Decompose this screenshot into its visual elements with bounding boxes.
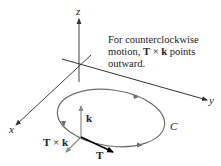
caption-T: T <box>143 46 150 57</box>
z-axis-label: z <box>76 6 80 17</box>
diagram-canvas <box>0 0 221 166</box>
t-vector-label: T <box>96 150 103 161</box>
txk-k: k <box>62 136 68 148</box>
k-vector-label: k <box>86 113 92 124</box>
x-axis-label: x <box>9 124 14 135</box>
caption-line-1: For counterclockwise <box>108 34 218 46</box>
caption-points: points <box>167 46 195 57</box>
caption-times: × <box>150 46 161 57</box>
txk-times: × <box>50 136 62 148</box>
caption-motion: motion, <box>108 46 143 57</box>
curve-c-label: C <box>170 121 177 132</box>
t-cross-k-vector <box>66 137 81 152</box>
y-axis-label: y <box>209 95 214 106</box>
t-cross-k-label: T × k <box>43 137 68 148</box>
curve-c <box>54 83 169 153</box>
curve-arrow-bottom <box>137 143 143 148</box>
caption-line-3: outward. <box>108 58 218 70</box>
caption-line-2: motion, T × k points <box>108 46 218 58</box>
caption-text: For counterclockwise motion, T × k point… <box>108 34 218 70</box>
x-axis <box>16 55 91 125</box>
